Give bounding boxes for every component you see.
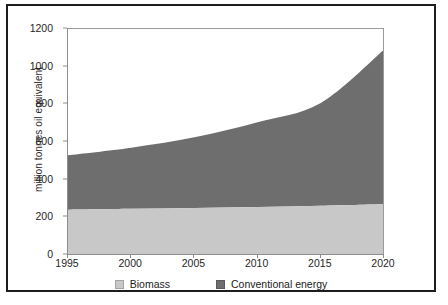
y-tick-label: 800 — [0, 97, 53, 109]
area-series-conventional-energy — [68, 50, 384, 210]
x-tick-label: 1995 — [37, 257, 97, 269]
legend-item: Conventional energy — [216, 278, 327, 290]
plot-area — [67, 28, 384, 255]
y-tick-label: 1000 — [0, 60, 53, 72]
stacked-area-chart: million tonnes oil equivalent 0200400600… — [8, 6, 434, 290]
legend-label: Biomass — [130, 278, 170, 290]
x-tick-label: 2015 — [290, 257, 350, 269]
y-tick-label: 600 — [0, 135, 53, 147]
x-tick-label: 2000 — [100, 257, 160, 269]
x-tick-label: 2005 — [163, 257, 223, 269]
chart-frame: million tonnes oil equivalent 0200400600… — [6, 4, 436, 292]
y-tick-label: 400 — [0, 173, 53, 185]
y-tick-label: 200 — [0, 210, 53, 222]
legend-swatch-icon — [115, 280, 124, 289]
legend-item: Biomass — [115, 278, 170, 290]
y-tick-label: 1200 — [0, 22, 53, 34]
area-series-group — [68, 29, 384, 254]
legend-swatch-icon — [216, 280, 225, 289]
plot-box — [68, 28, 384, 254]
x-tick-label: 2020 — [353, 257, 413, 269]
area-series-biomass — [68, 204, 384, 254]
x-tick-label: 2010 — [227, 257, 287, 269]
chart-legend: BiomassConventional energy — [8, 278, 434, 290]
legend-label: Conventional energy — [231, 278, 327, 290]
